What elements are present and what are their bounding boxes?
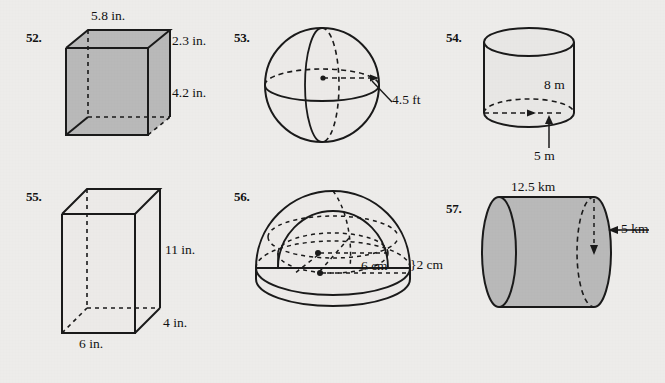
exercise-page: 52. 5.8 in. 2.3 in. 4.2 in. 53. — [0, 0, 665, 383]
problem-52: 52. 5.8 in. 2.3 in. 4.2 in. — [0, 0, 222, 175]
problem-57: 57. 12.5 km 5 km — [444, 175, 665, 383]
cylinder-top-ellipse — [484, 28, 574, 56]
problem-53: 53. 4.5 ft — [222, 0, 444, 175]
dimension-label-radius-53: 4.5 ft — [392, 92, 421, 108]
dimension-label-height-55: 11 in. — [165, 242, 195, 258]
dimension-label-width-52: 5.8 in. — [91, 8, 125, 24]
dimension-label-length-57: 12.5 km — [511, 179, 555, 195]
dimension-label-radius-56: 6 cm — [361, 258, 388, 274]
figure-cylinder-57 — [444, 175, 665, 383]
dimension-label-depth-52: 2.3 in. — [172, 33, 206, 49]
sphere-outline — [265, 28, 379, 142]
problem-55: 55. 11 in. 4 in. 6 in. — [0, 175, 222, 383]
dimension-label-radius-54: 5 m — [534, 148, 555, 164]
dimension-label-thickness-56: }2 cm — [410, 257, 443, 273]
dimension-label-width-55: 6 in. — [79, 336, 103, 352]
dimension-label-radius-57: 5 km — [621, 221, 648, 237]
dimension-label-height-54: 8 m — [544, 77, 565, 93]
cylinder57-left-end-face — [482, 197, 516, 307]
sphere-center-dot — [320, 75, 325, 80]
figure-hemisphere-56 — [222, 175, 444, 383]
prism-front-face — [66, 48, 148, 135]
figure-sphere-53 — [222, 0, 444, 175]
dimension-label-depth-55: 4 in. — [163, 315, 187, 331]
prism55-front-face — [62, 214, 135, 333]
problem-54: 54. 8 m 5 m — [444, 0, 665, 175]
problem-56: 56. — [222, 175, 444, 383]
figure-rectangular-prism-55 — [0, 175, 222, 383]
dimension-label-height-52: 4.2 in. — [172, 85, 206, 101]
